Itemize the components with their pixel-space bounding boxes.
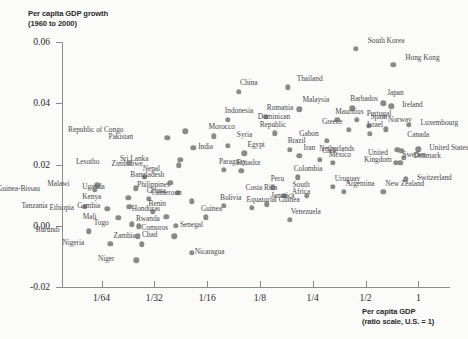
data-point[interactable]	[171, 234, 176, 239]
data-point-label: Nigeria	[62, 239, 84, 247]
data-point[interactable]	[183, 129, 188, 134]
data-point-label: Japan	[387, 89, 404, 97]
data-point[interactable]	[297, 153, 302, 158]
data-point[interactable]	[287, 217, 292, 222]
x-tick-mark	[154, 281, 155, 287]
data-point-label: Burundi	[36, 226, 60, 234]
data-point[interactable]	[225, 143, 230, 148]
data-point-label: Barbados	[350, 95, 378, 103]
data-point-label: Sweden	[402, 151, 425, 159]
data-point[interactable]	[189, 250, 194, 255]
data-point-label: South Korea	[368, 37, 405, 45]
data-point[interactable]	[190, 145, 195, 150]
data-point[interactable]	[380, 101, 385, 106]
data-point[interactable]	[236, 89, 241, 94]
y-tick-label: 0.04	[6, 97, 50, 108]
x-tick-label: 1/8	[240, 292, 280, 303]
data-point[interactable]	[297, 107, 302, 112]
data-point[interactable]	[239, 168, 244, 173]
data-point[interactable]	[126, 195, 131, 200]
x-tick-mark	[366, 281, 367, 287]
data-point[interactable]	[134, 258, 139, 263]
data-point[interactable]	[221, 203, 226, 208]
x-tick-mark	[207, 281, 208, 287]
x-tick-mark	[102, 281, 103, 287]
data-point-label: Bolivia	[220, 194, 241, 202]
data-point[interactable]	[164, 214, 169, 219]
data-point[interactable]	[129, 222, 134, 227]
data-point[interactable]	[135, 234, 140, 239]
data-point-label: Mauritius	[335, 108, 363, 116]
data-point-label: Gambia	[77, 202, 100, 210]
data-point-label: Dominican Republic	[258, 113, 288, 128]
data-point[interactable]	[173, 223, 178, 228]
y-tick-label: 0.02	[6, 159, 50, 170]
data-point-label: China	[240, 79, 257, 87]
data-point[interactable]	[367, 131, 372, 136]
data-point[interactable]	[324, 138, 329, 143]
data-point-label: Guinea-Bissau	[0, 185, 40, 193]
data-point[interactable]	[406, 122, 411, 127]
data-point[interactable]	[317, 157, 322, 162]
data-point[interactable]	[285, 85, 290, 90]
data-point-label: Egypt	[247, 141, 264, 149]
x-axis-line	[62, 287, 450, 288]
y-axis-title-line2: (1960 to 2000)	[28, 19, 77, 28]
data-point-label: Equatorial Guinea	[247, 196, 300, 204]
x-tick-label: 1/32	[134, 292, 174, 303]
data-point-label: Nicaragua	[195, 248, 225, 256]
data-point-label: Lesotho	[76, 158, 99, 166]
data-point-label: Thailand	[297, 75, 323, 83]
data-point-label: Malawi	[47, 180, 69, 188]
x-axis-title-line2: (ratio scale, U.S. = 1)	[362, 317, 434, 326]
x-tick-label: 1/4	[293, 292, 333, 303]
data-point[interactable]	[86, 229, 91, 234]
data-point-label: Luxembourg	[421, 119, 459, 127]
data-point[interactable]	[354, 117, 359, 122]
data-point-label: Mexico	[329, 151, 351, 159]
x-tick-mark	[418, 281, 419, 287]
data-point[interactable]	[383, 127, 388, 132]
data-point-label: Canada	[407, 131, 429, 139]
data-point[interactable]	[341, 189, 346, 194]
data-point[interactable]	[116, 215, 121, 220]
data-point[interactable]	[242, 150, 247, 155]
data-point-label: Philippines	[137, 181, 170, 189]
x-tick-label: 1	[398, 292, 438, 303]
data-point[interactable]	[353, 46, 358, 51]
data-point[interactable]	[330, 184, 335, 189]
data-point[interactable]	[249, 205, 254, 210]
y-tick-mark	[56, 42, 63, 43]
data-point-label: Costa Rica	[246, 184, 278, 192]
data-point[interactable]	[104, 206, 109, 211]
x-tick-label: 1/64	[82, 292, 122, 303]
data-point-label: Venezuela	[291, 208, 321, 216]
data-point-label: Rwanda	[136, 215, 160, 223]
data-point[interactable]	[203, 214, 208, 219]
data-point[interactable]	[380, 189, 385, 194]
data-point[interactable]	[287, 147, 292, 152]
data-point[interactable]	[176, 163, 181, 168]
data-point-label: Tanzania	[21, 202, 47, 210]
data-point[interactable]	[165, 135, 170, 140]
data-point[interactable]	[189, 199, 194, 204]
x-tick-mark	[260, 281, 261, 287]
data-point[interactable]	[211, 134, 216, 139]
data-point[interactable]	[330, 160, 335, 165]
data-point[interactable]	[272, 131, 277, 136]
data-point[interactable]	[108, 241, 113, 246]
data-point[interactable]	[346, 127, 351, 132]
data-point-label: Niger	[98, 255, 115, 263]
data-point-label: Republic of Congo	[68, 126, 123, 134]
data-point-label: Romania	[267, 104, 293, 112]
data-point[interactable]	[139, 241, 144, 246]
data-point[interactable]	[221, 167, 226, 172]
data-point[interactable]	[391, 62, 396, 67]
y-axis-title-line1: Per capita GDP growth	[28, 9, 108, 18]
data-point-label: Senegal	[180, 221, 203, 229]
data-point[interactable]	[398, 160, 403, 165]
data-point-label: Indonesia	[225, 107, 253, 115]
y-tick-label: -0.02	[6, 281, 50, 292]
y-tick-mark	[56, 287, 63, 288]
